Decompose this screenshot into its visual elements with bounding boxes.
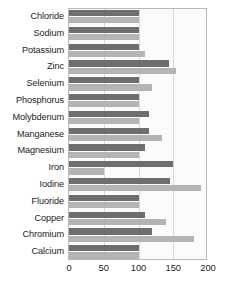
bar-row: Chloride <box>0 8 225 25</box>
bar-group <box>69 142 207 159</box>
bar-series-b-copper <box>69 219 166 225</box>
x-axis: 050100150200 <box>0 262 225 280</box>
bar-series-a-iodine <box>69 178 170 184</box>
bar-row: Magnesium <box>0 142 225 159</box>
bar-row: Zinc <box>0 58 225 75</box>
bar-series-b-chloride <box>69 17 139 23</box>
bar-series-b-chromium <box>69 236 194 242</box>
bar-series-a-magnesium <box>69 144 145 150</box>
bar-row: Calcium <box>0 243 225 260</box>
bar-series-b-zinc <box>69 68 176 74</box>
bar-series-a-sodium <box>69 27 139 33</box>
bar-row: Selenium <box>0 75 225 92</box>
category-label-manganese: Manganese <box>0 126 64 143</box>
x-tick-200: 200 <box>200 262 216 273</box>
bar-row: Manganese <box>0 126 225 143</box>
bar-series-b-magnesium <box>69 152 139 158</box>
bar-series-b-potassium <box>69 51 145 57</box>
category-label-chromium: Chromium <box>0 226 64 243</box>
bar-row: Iron <box>0 159 225 176</box>
category-label-calcium: Calcium <box>0 243 64 260</box>
category-label-molybdenum: Molybdenum <box>0 109 64 126</box>
category-label-fluoride: Fluoride <box>0 193 64 210</box>
bar-group <box>69 193 207 210</box>
bar-group <box>69 159 207 176</box>
bar-group <box>69 92 207 109</box>
bar-row: Iodine <box>0 176 225 193</box>
bar-series-b-phosphorus <box>69 101 139 107</box>
bar-group <box>69 109 207 126</box>
category-label-iron: Iron <box>0 159 64 176</box>
bar-series-b-selenium <box>69 84 152 90</box>
category-label-chloride: Chloride <box>0 8 64 25</box>
bar-series-a-molybdenum <box>69 111 149 117</box>
bar-rows: ChlorideSodiumPotassiumZincSeleniumPhosp… <box>0 8 225 260</box>
bar-series-a-chloride <box>69 10 139 16</box>
bar-group <box>69 226 207 243</box>
category-label-selenium: Selenium <box>0 75 64 92</box>
bar-group <box>69 126 207 143</box>
bar-group <box>69 8 207 25</box>
bar-group <box>69 58 207 75</box>
bar-row: Molybdenum <box>0 109 225 126</box>
category-label-copper: Copper <box>0 210 64 227</box>
bar-row: Chromium <box>0 226 225 243</box>
category-label-phosphorus: Phosphorus <box>0 92 64 109</box>
bar-row: Potassium <box>0 42 225 59</box>
bar-row: Phosphorus <box>0 92 225 109</box>
category-label-potassium: Potassium <box>0 42 64 59</box>
category-label-sodium: Sodium <box>0 25 64 42</box>
bar-series-a-fluoride <box>69 195 139 201</box>
bar-series-b-iodine <box>69 185 201 191</box>
bar-series-a-iron <box>69 161 173 167</box>
x-tick-0: 0 <box>66 262 71 273</box>
bar-series-a-potassium <box>69 44 139 50</box>
bar-series-b-iron <box>69 168 104 174</box>
bar-series-a-copper <box>69 212 145 218</box>
bar-group <box>69 176 207 193</box>
bar-row: Fluoride <box>0 193 225 210</box>
bar-row: Copper <box>0 210 225 227</box>
bar-group <box>69 25 207 42</box>
bar-series-a-calcium <box>69 245 139 251</box>
bar-group <box>69 75 207 92</box>
bar-series-a-manganese <box>69 128 149 134</box>
x-tick-50: 50 <box>99 262 109 273</box>
bar-series-a-zinc <box>69 60 169 66</box>
category-label-zinc: Zinc <box>0 58 64 75</box>
bar-series-b-molybdenum <box>69 118 139 124</box>
bar-series-a-chromium <box>69 228 152 234</box>
bar-group <box>69 210 207 227</box>
category-label-magnesium: Magnesium <box>0 142 64 159</box>
category-label-iodine: Iodine <box>0 176 64 193</box>
bar-series-a-phosphorus <box>69 94 139 100</box>
bar-series-a-selenium <box>69 77 139 83</box>
x-tick-150: 150 <box>165 262 181 273</box>
bar-row: Sodium <box>0 25 225 42</box>
x-tick-100: 100 <box>131 262 147 273</box>
bar-chart: ChlorideSodiumPotassiumZincSeleniumPhosp… <box>0 0 225 288</box>
bar-series-b-manganese <box>69 135 162 141</box>
bar-group <box>69 42 207 59</box>
bar-series-b-fluoride <box>69 202 139 208</box>
bar-group <box>69 243 207 260</box>
bar-series-b-sodium <box>69 34 139 40</box>
bar-series-b-calcium <box>69 252 139 258</box>
